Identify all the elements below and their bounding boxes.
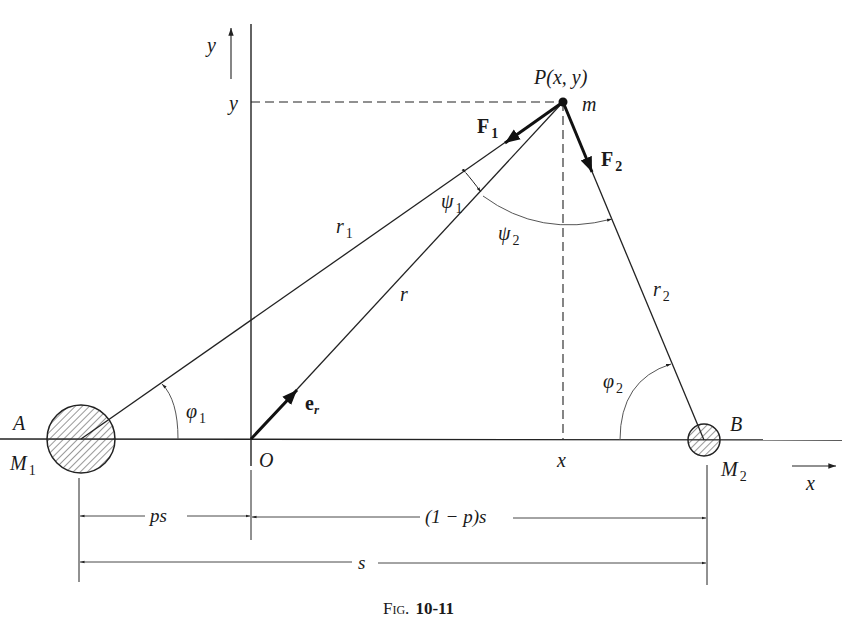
mass-m2-body — [688, 424, 720, 456]
x-axis-label: x — [805, 472, 815, 494]
psi1-angle-arc — [466, 173, 481, 192]
mass-m-label: m — [582, 93, 596, 115]
y-level-label: y — [227, 92, 238, 115]
psi2-angle-arc — [483, 196, 612, 225]
f1-force-arrow-icon — [505, 102, 563, 143]
phi1-angle-arc — [162, 384, 178, 439]
f1-label: F1 — [477, 115, 498, 141]
dim-ps-label: ps — [148, 505, 167, 526]
mass-m2-label: M2 — [720, 458, 747, 484]
mass-m1-label: M1 — [9, 452, 36, 478]
figure-caption: Fig.10-11 — [383, 599, 454, 618]
point-p-label: P(x, y) — [533, 66, 588, 89]
point-b-label: B — [730, 413, 742, 435]
point-p-dot — [559, 98, 568, 107]
er-label: er — [305, 392, 320, 417]
psi2-label: ψ2 — [498, 222, 519, 248]
f2-label: F2 — [601, 148, 622, 174]
diagram-canvas: y y x P(x, y) m F1 F2 er r1 r r2 ψ1 ψ2 — [0, 0, 864, 621]
r2-label: r2 — [653, 278, 670, 304]
r-line — [251, 102, 563, 439]
y-axis-label: y — [205, 34, 216, 57]
phi2-angle-arc — [620, 364, 671, 440]
point-a-label: A — [11, 412, 26, 434]
psi1-label: ψ1 — [441, 190, 462, 216]
phi2-label: φ2 — [603, 370, 623, 396]
r1-label: r1 — [336, 215, 353, 241]
x-foot-label: x — [556, 449, 566, 471]
dim-1mps-label: (1 − p)s — [425, 506, 486, 528]
mass-m1-body — [47, 405, 115, 473]
er-unit-vector-icon — [251, 390, 297, 439]
phi1-label: φ1 — [186, 400, 206, 426]
r-label: r — [400, 283, 408, 305]
origin-label: O — [259, 449, 273, 471]
r1-line — [81, 102, 563, 439]
dim-s-label: s — [358, 552, 365, 573]
